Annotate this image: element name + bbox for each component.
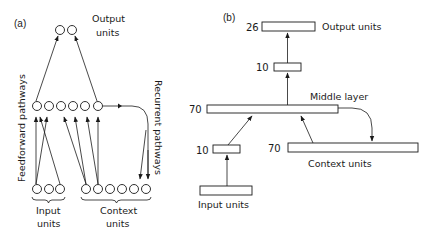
context-unit-node xyxy=(142,185,151,194)
context-unit-node xyxy=(118,185,127,194)
input-unit-node xyxy=(45,185,54,194)
output-units-label-line2: units xyxy=(96,27,119,38)
input-units-label-line1: Input xyxy=(36,205,61,216)
output-units-label-line1: Output xyxy=(92,13,125,24)
panel-a: (a) Output units xyxy=(14,13,164,229)
hidden-input-count: 10 xyxy=(196,145,209,156)
context-units-count: 70 xyxy=(268,143,281,154)
context-units-label: Context units xyxy=(308,158,372,169)
context-to-middle-arrow xyxy=(75,117,86,184)
recurrent-arrow xyxy=(140,130,146,179)
diagram-canvas: (a) Output units xyxy=(0,0,435,232)
middle-layer-label: Middle layer xyxy=(310,91,368,102)
panel-b-tag: (b) xyxy=(223,12,235,23)
input-units-box xyxy=(200,186,252,195)
hidden-input-box xyxy=(213,145,240,153)
middle-units xyxy=(33,102,103,111)
middle-unit-node xyxy=(57,102,66,111)
context-units-box xyxy=(288,143,418,152)
input-units-label: Input units xyxy=(198,199,249,210)
middle-layer-box xyxy=(207,105,338,113)
input-units-label-line2: units xyxy=(37,218,60,229)
panel-a-tag: (a) xyxy=(14,18,26,29)
context-to-middle-arrow xyxy=(301,116,313,143)
middle-unit-node xyxy=(69,102,78,111)
hidden-input-to-middle-arrow xyxy=(228,116,252,145)
output-units-box xyxy=(262,22,315,31)
middle-unit-node xyxy=(94,102,103,111)
context-unit-node xyxy=(106,185,115,194)
context-units xyxy=(82,185,151,194)
middle-unit-node xyxy=(81,102,90,111)
context-unit-node xyxy=(94,185,103,194)
hidden-top-count: 10 xyxy=(256,62,269,73)
context-brace xyxy=(81,197,151,203)
middle-layer-count: 70 xyxy=(189,104,202,115)
context-units-label-line1: Context xyxy=(100,205,137,216)
feedforward-arrow xyxy=(36,36,58,101)
output-units-count: 26 xyxy=(246,22,259,33)
feedforward-pathways-label: Feedforward pathways xyxy=(16,74,27,182)
feedforward-arrow xyxy=(75,36,97,101)
context-to-middle-arrow xyxy=(64,117,86,184)
recurrent-pathways-label: Recurrent pathways xyxy=(153,80,164,175)
context-unit-node xyxy=(130,185,139,194)
output-unit-node xyxy=(68,26,77,35)
input-units xyxy=(33,185,65,194)
middle-to-context-arrow xyxy=(338,108,372,141)
input-unit-node xyxy=(33,185,42,194)
output-units-label: Output units xyxy=(322,21,381,32)
panel-b: (b) 26 Output units 10 70 Middle layer 1… xyxy=(189,12,418,210)
output-units xyxy=(56,26,77,35)
context-unit-node xyxy=(82,185,91,194)
input-to-middle-arrow xyxy=(36,117,47,184)
middle-unit-node xyxy=(33,102,42,111)
input-brace xyxy=(32,197,65,203)
input-to-middle-arrow xyxy=(40,117,60,184)
recurrent-direction-icon xyxy=(118,104,122,109)
context-to-middle-arrow xyxy=(87,117,98,184)
input-unit-node xyxy=(56,185,65,194)
hidden-top-box xyxy=(274,63,301,71)
context-units-label-line2: units xyxy=(106,218,129,229)
output-unit-node xyxy=(56,26,65,35)
middle-unit-node xyxy=(45,102,54,111)
